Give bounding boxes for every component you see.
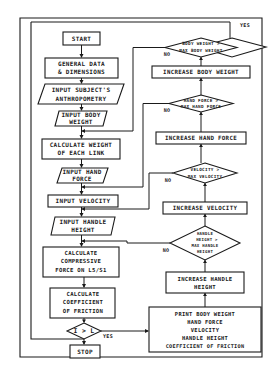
input-handle-height-node: INPUT HANDLE HEIGHT [51, 217, 115, 235]
svg-text:INPUT HAND: INPUT HAND [62, 168, 101, 175]
svg-text:MAX BODY WEIGHT: MAX BODY WEIGHT [179, 48, 222, 53]
svg-text:WEIGHT: WEIGHT [69, 118, 93, 125]
svg-text:HEIGHT: HEIGHT [71, 226, 95, 233]
svg-text:INCREASE BODY WEIGHT: INCREASE BODY WEIGHT [163, 69, 239, 75]
increase-body-weight-node: INCREASE BODY WEIGHT [152, 66, 250, 78]
svg-text:INPUT VELOCITY: INPUT VELOCITY [56, 197, 111, 204]
yes-label-bottom: YES [103, 333, 113, 339]
svg-text:FORCE: FORCE [72, 175, 92, 182]
svg-text:HANDLE HEIGHT: HANDLE HEIGHT [182, 335, 229, 341]
svg-text:ANTHROPOMETRY: ANTHROPOMETRY [56, 95, 107, 102]
svg-text:STOP: STOP [77, 348, 93, 355]
svg-text:MAX HANDLE: MAX HANDLE [191, 243, 218, 248]
svg-text:START: START [72, 35, 92, 42]
decision-i-gt-l: I > L [67, 323, 101, 339]
svg-text:HEIGHT: HEIGHT [194, 284, 216, 290]
input-velocity-node: INPUT VELOCITY [48, 195, 118, 207]
svg-text:COEFFICIENT: COEFFICIENT [63, 299, 104, 305]
calc-link-weight-node: CALCULATE WEIGHT OF EACH LINK [42, 139, 120, 159]
svg-text:OF FRICTION: OF FRICTION [63, 308, 104, 314]
svg-text:INCREASE HANDLE: INCREASE HANDLE [177, 276, 232, 282]
decision-velocity: VELOCITY > MAX VELOCITY [173, 163, 237, 183]
svg-text:HEIGHT: HEIGHT [197, 249, 214, 254]
increase-handle-height-node: INCREASE HANDLE HEIGHT [166, 272, 244, 293]
svg-text:INCREASE HAND FORCE: INCREASE HAND FORCE [165, 135, 237, 141]
no-label-body-weight: NO [164, 51, 171, 57]
input-body-weight-node: INPUT BODY WEIGHT [55, 111, 107, 126]
svg-text:& DIMENSIONS: & DIMENSIONS [58, 68, 105, 75]
svg-text:GENERAL DATA: GENERAL DATA [58, 60, 105, 67]
svg-text:MAX HAND FORCE: MAX HAND FORCE [181, 104, 222, 109]
svg-text:HEIGHT >: HEIGHT > [196, 237, 218, 242]
svg-text:CALCULATE: CALCULATE [66, 291, 99, 297]
svg-text:CALCULATE: CALCULATE [64, 250, 97, 256]
no-label-velocity: NO [165, 177, 172, 183]
svg-text:INPUT HANDLE: INPUT HANDLE [60, 218, 107, 225]
increase-velocity-node: INCREASE VELOCITY [163, 202, 247, 214]
svg-text:COEFFICIENT OF FRICTION: COEFFICIENT OF FRICTION [166, 343, 245, 349]
svg-text:INPUT BODY: INPUT BODY [61, 111, 100, 118]
svg-text:HAND FORCE: HAND FORCE [187, 319, 222, 325]
svg-text:VELOCITY >: VELOCITY > [191, 167, 220, 172]
svg-text:OF EACH LINK: OF EACH LINK [58, 149, 105, 156]
svg-text:MAX VELOCITY: MAX VELOCITY [188, 174, 223, 179]
general-data-node: GENERAL DATA & DIMENSIONS [45, 58, 118, 78]
svg-text:CALCULATE WEIGHT: CALCULATE WEIGHT [50, 141, 113, 148]
svg-text:COMPRESSIVE: COMPRESSIVE [61, 258, 101, 264]
stop-node: STOP [70, 345, 100, 358]
svg-text:FORCE ON L5/S1: FORCE ON L5/S1 [55, 267, 107, 273]
input-anthropometry-node: INPUT SUBJECT'S ANTHROPOMETRY [38, 84, 124, 104]
flowchart-canvas: START GENERAL DATA & DIMENSIONS INPUT SU… [0, 0, 273, 372]
svg-text:HAND FORCE >: HAND FORCE > [184, 98, 219, 103]
increase-hand-force-node: INCREASE HAND FORCE [156, 132, 246, 144]
decision-hand-force: HAND FORCE > MAX HAND FORCE [169, 95, 233, 112]
svg-text:VELOCITY: VELOCITY [191, 327, 220, 333]
start-node: START [63, 32, 100, 45]
calc-compressive-force-node: CALCULATE COMPRESSIVE FORCE ON L5/S1 [43, 247, 119, 277]
svg-text:HANDLE: HANDLE [197, 231, 214, 236]
no-label-hand-force: NO [164, 107, 171, 113]
input-hand-force-node: INPUT HAND FORCE [57, 168, 108, 183]
svg-text:INPUT SUBJECT'S: INPUT SUBJECT'S [52, 86, 111, 93]
no-label-handle-height: NO [163, 247, 170, 253]
svg-text:PRINT BODY WEIGHT: PRINT BODY WEIGHT [175, 311, 236, 317]
print-results-node: PRINT BODY WEIGHT HAND FORCE VELOCITY HA… [149, 307, 261, 352]
svg-text:I > L: I > L [73, 327, 94, 335]
decision-handle-height: HANDLE HEIGHT > MAX HANDLE HEIGHT [170, 226, 240, 260]
yes-label-top: YES [240, 22, 250, 28]
svg-text:BODY WEIGHT >: BODY WEIGHT > [182, 41, 220, 46]
calc-friction-node: CALCULATE COEFFICIENT OF FRICTION [50, 288, 115, 318]
svg-text:INCREASE VELOCITY: INCREASE VELOCITY [173, 205, 238, 211]
